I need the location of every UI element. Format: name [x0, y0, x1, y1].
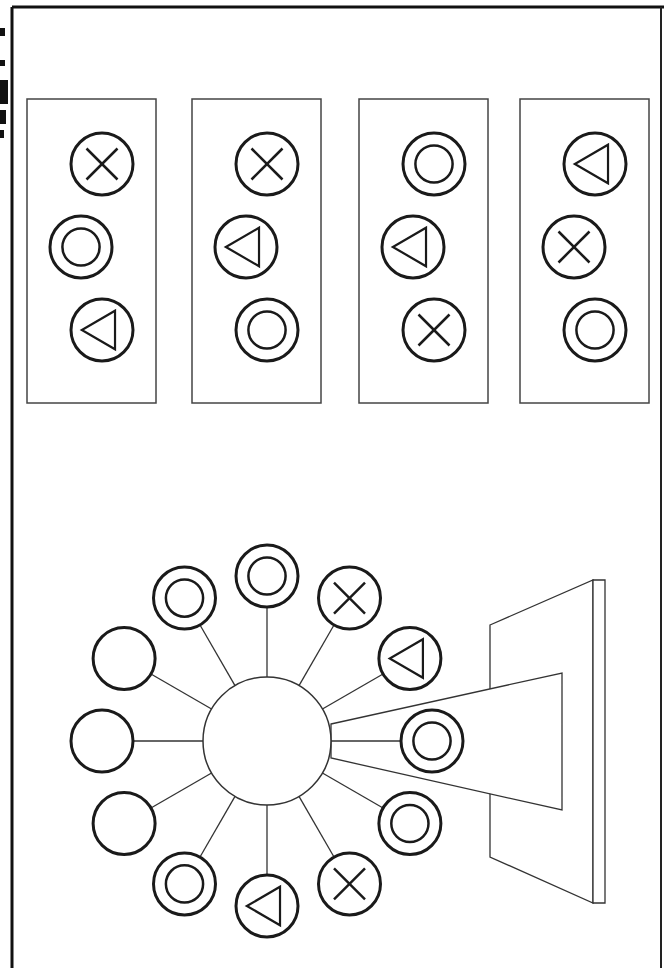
spoke-line — [151, 674, 212, 709]
answer-panels — [27, 99, 649, 403]
triangle-symbol-icon — [71, 299, 133, 361]
double-circle-symbol-icon — [403, 133, 465, 195]
triangle-symbol-icon — [564, 133, 626, 195]
wheel-node-double-circle-icon — [236, 545, 298, 607]
cross-symbol-icon — [403, 299, 465, 361]
wheel-node-double-circle-icon — [379, 793, 441, 855]
spoke-line — [299, 625, 334, 686]
wheel-node-double-circle-icon — [154, 567, 216, 629]
answer-panel-1[interactable] — [27, 99, 156, 403]
puzzle-diagram — [0, 0, 664, 968]
spoke-line — [200, 625, 235, 686]
wheel-node-triangle-icon — [236, 875, 298, 937]
wheel-node-double-circle-icon — [154, 853, 216, 915]
spoke-line — [322, 674, 383, 709]
wheel-node-triangle-icon — [379, 628, 441, 690]
triangle-symbol-icon — [382, 216, 444, 278]
spoke-line — [322, 773, 383, 808]
cross-symbol-icon — [71, 133, 133, 195]
answer-panel-2[interactable] — [192, 99, 321, 403]
wheel-node-double-circle-icon — [401, 710, 463, 772]
double-circle-symbol-icon — [236, 299, 298, 361]
wheel-node-empty-icon — [71, 710, 133, 772]
screen-edge — [593, 580, 605, 903]
double-circle-symbol-icon — [564, 299, 626, 361]
wheel-node-cross-icon — [319, 567, 381, 629]
triangle-symbol-icon — [215, 216, 277, 278]
spoke-line — [200, 796, 235, 857]
symbol-wheel — [71, 545, 463, 937]
wheel-hub — [203, 677, 331, 805]
spoke-line — [299, 796, 334, 857]
answer-panel-4[interactable] — [520, 99, 649, 403]
wheel-node-empty-icon — [93, 793, 155, 855]
cross-symbol-icon — [543, 216, 605, 278]
wheel-node-empty-icon — [93, 628, 155, 690]
wheel-node-cross-icon — [319, 853, 381, 915]
spoke-line — [151, 773, 212, 808]
answer-panel-3[interactable] — [359, 99, 488, 403]
cross-symbol-icon — [236, 133, 298, 195]
double-circle-symbol-icon — [50, 216, 112, 278]
